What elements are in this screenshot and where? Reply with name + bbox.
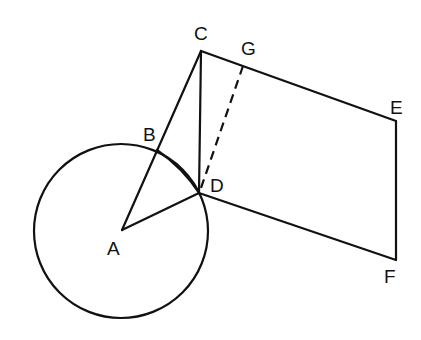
label-a: A <box>107 238 120 259</box>
label-b: B <box>143 124 156 145</box>
segment-ac <box>122 51 201 230</box>
label-e: E <box>390 97 403 118</box>
chord-bd <box>157 150 199 193</box>
label-g: G <box>241 38 256 59</box>
label-f: F <box>384 266 396 287</box>
geometry-diagram: A B C D E F G <box>0 0 421 340</box>
segment-df <box>199 193 396 260</box>
segment-ce <box>201 51 396 121</box>
segment-gd-dashed <box>201 66 243 188</box>
segment-ad <box>122 193 199 230</box>
label-d: D <box>210 175 224 196</box>
label-c: C <box>194 23 208 44</box>
segment-cd <box>199 51 201 193</box>
